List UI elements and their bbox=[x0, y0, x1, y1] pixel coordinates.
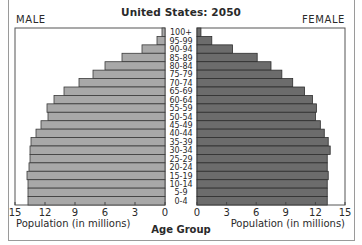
male-x-tick-label: 6 bbox=[102, 207, 108, 218]
female-bar-95-99 bbox=[197, 36, 212, 44]
male-bar-15-19 bbox=[27, 171, 165, 179]
male-bar-60-64 bbox=[54, 95, 165, 103]
male-bar-70-74 bbox=[79, 79, 165, 87]
male-bar-85-89 bbox=[122, 53, 165, 61]
male-bar-35-39 bbox=[31, 138, 165, 146]
female-bar-15-19 bbox=[197, 171, 328, 179]
male-bar-30-34 bbox=[30, 146, 165, 154]
female-bar-75-79 bbox=[197, 70, 282, 78]
female-bar-55-59 bbox=[197, 104, 316, 112]
female-bar-25-29 bbox=[197, 154, 327, 162]
female-bar-20-24 bbox=[197, 163, 327, 171]
female-bar-65-69 bbox=[197, 87, 305, 95]
female-bar-10-14 bbox=[197, 180, 327, 188]
male-bar-5-9 bbox=[28, 188, 165, 196]
male-bar-55-59 bbox=[47, 104, 165, 112]
female-x-tick-label: 6 bbox=[253, 207, 259, 218]
female-x-tick-label: 9 bbox=[283, 207, 289, 218]
male-bar-75-79 bbox=[93, 70, 165, 78]
female-bar-60-64 bbox=[197, 95, 312, 103]
female-bar-80-84 bbox=[197, 62, 271, 70]
male-bar-95-99 bbox=[157, 36, 165, 44]
female-bar-85-89 bbox=[197, 53, 257, 61]
female-bar-50-54 bbox=[197, 112, 315, 120]
female-bar-70-74 bbox=[197, 79, 293, 87]
male-bar-10-14 bbox=[28, 180, 165, 188]
male-bar-80-84 bbox=[105, 62, 165, 70]
male-x-tick-label: 9 bbox=[72, 207, 78, 218]
female-bar-0-4 bbox=[197, 197, 327, 205]
female-x-tick-label: 3 bbox=[223, 207, 229, 218]
male-bar-20-24 bbox=[29, 163, 165, 171]
male-x-tick-label: 0 bbox=[162, 207, 168, 218]
male-x-tick-label: 12 bbox=[39, 207, 52, 218]
male-bar-0-4 bbox=[28, 197, 165, 205]
age-group-axis-title: Age Group bbox=[0, 224, 362, 235]
female-bar-90-94 bbox=[197, 45, 233, 53]
female-bar-35-39 bbox=[197, 138, 328, 146]
female-bar-40-44 bbox=[197, 129, 324, 137]
male-bar-25-29 bbox=[30, 154, 165, 162]
male-bar-65-69 bbox=[64, 87, 165, 95]
female-bar-5-9 bbox=[197, 188, 327, 196]
female-x-tick-label: 12 bbox=[309, 207, 322, 218]
male-x-tick-label: 15 bbox=[9, 207, 22, 218]
female-bar-45-49 bbox=[197, 121, 320, 129]
female-bar-30-34 bbox=[197, 146, 330, 154]
male-bar-40-44 bbox=[36, 129, 165, 137]
female-x-tick-label: 0 bbox=[194, 207, 200, 218]
male-bar-45-49 bbox=[41, 121, 165, 129]
male-bar-90-94 bbox=[142, 45, 165, 53]
male-bar-50-54 bbox=[48, 112, 165, 120]
age-label-0-4: 0-4 bbox=[174, 197, 187, 206]
male-x-tick-label: 3 bbox=[132, 207, 138, 218]
population-pyramid-chart: 100+95-9990-9485-8980-8475-7970-7465-696… bbox=[0, 0, 362, 245]
male-bar-100+ bbox=[162, 28, 165, 36]
female-bar-100+ bbox=[197, 28, 201, 36]
female-x-tick-label: 15 bbox=[339, 207, 352, 218]
